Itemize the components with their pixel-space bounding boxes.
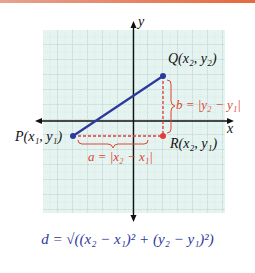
point-p (70, 133, 76, 139)
point-q-label: Q(x₂, y₂) (168, 52, 217, 66)
point-r-label: R(x₂, y₁) (170, 137, 217, 151)
vertical-leg-label: b = |y₂ − y₁| (176, 98, 241, 111)
point-p-label: P(x₁, y₁) (15, 130, 62, 144)
point-q (160, 73, 166, 79)
x-axis-label: x (227, 122, 233, 136)
y-axis-label: y (138, 15, 144, 29)
distance-formula: d = √((x₂ − x₁)² + (y₂ − y₁)²) (0, 231, 255, 248)
point-r (160, 133, 166, 139)
horizontal-leg-label: a = |x₂ − x₁| (88, 150, 153, 163)
